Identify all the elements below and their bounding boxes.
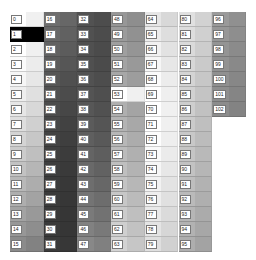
color-swatch: 31 [44,237,78,252]
color-swatch: 92 [179,192,213,207]
color-swatch: 84 [179,72,213,87]
swatch-shade [127,42,143,56]
color-swatch: 95 [179,237,213,252]
swatch-shade [229,72,245,86]
color-swatch: 35 [77,57,111,72]
swatch-index-label: 86 [180,105,191,114]
color-swatch: 49 [111,27,145,42]
swatch-shade [26,42,42,56]
swatch-index-label: 9 [11,150,22,159]
swatch-shade [161,222,177,236]
swatch-index-label: 27 [45,180,56,189]
swatch-shade [60,57,76,71]
swatch-shade [26,207,42,221]
swatch-index-label: 5 [11,90,22,99]
swatch-index-label: 46 [78,225,89,234]
color-swatch: 19 [44,57,78,72]
color-swatch: 70 [145,102,179,117]
color-swatch: 62 [111,222,145,237]
swatch-shade [195,72,211,86]
swatch-shade [94,237,110,251]
swatch-shade [94,12,110,26]
color-swatch: 79 [145,237,179,252]
swatch-index-label: 20 [45,75,56,84]
swatch-shade [195,207,211,221]
swatch-index-label: 83 [180,60,191,69]
swatch-shade [195,132,211,146]
color-swatch: 66 [145,42,179,57]
color-swatch: 36 [77,72,111,87]
swatch-index-label: 31 [45,240,56,249]
swatch-index-label: 69 [146,90,157,99]
swatch-index-label: 37 [78,90,89,99]
color-swatch: 2 [10,42,44,57]
color-swatch: 25 [44,147,78,162]
color-swatch: 24 [44,132,78,147]
swatch-index-label: 41 [78,150,89,159]
swatch-shade [195,117,211,131]
swatch-shade [229,27,245,41]
color-swatch: 69 [145,87,179,102]
swatch-shade [195,42,211,56]
swatch-index-label: 25 [45,150,56,159]
color-swatch: 44 [77,192,111,207]
color-swatch: 67 [145,57,179,72]
color-swatch: 15 [10,237,44,252]
color-swatch: 17 [44,27,78,42]
color-swatch: 94 [179,222,213,237]
swatch-column: 0123456789101112131415 [10,12,44,252]
swatch-index-label: 71 [146,120,157,129]
swatch-index-label: 96 [213,15,224,24]
swatch-shade [127,162,143,176]
swatch-shade [94,117,110,131]
color-swatch: 55 [111,117,145,132]
color-swatch: 99 [212,57,246,72]
swatch-index-label: 11 [11,180,22,189]
swatch-index-label: 81 [180,30,191,39]
swatch-shade [26,57,42,71]
color-swatch: 47 [77,237,111,252]
color-swatch: 83 [179,57,213,72]
color-swatch: 27 [44,177,78,192]
swatch-shade [195,222,211,236]
color-swatch: 102 [212,102,246,117]
swatch-index-label: 80 [180,15,191,24]
swatch-index-label: 22 [45,105,56,114]
swatch-shade [229,12,245,26]
color-swatch: 16 [44,12,78,27]
color-swatch: 13 [10,207,44,222]
swatch-index-label: 102 [213,105,225,114]
swatch-column: 64656667686970717273747576777879 [145,12,179,252]
swatch-index-label: 84 [180,75,191,84]
swatch-index-label: 2 [11,45,22,54]
swatch-shade [195,102,211,116]
color-swatch: 12 [10,192,44,207]
swatch-shade [94,42,110,56]
swatch-shade [26,72,42,86]
swatch-shade [229,87,245,101]
color-swatch: 89 [179,147,213,162]
swatch-shade [94,177,110,191]
swatch-index-label: 76 [146,195,157,204]
swatch-index-label: 1 [11,30,22,39]
color-swatch: 22 [44,102,78,117]
swatch-index-label: 51 [112,60,123,69]
color-swatch: 26 [44,162,78,177]
color-swatch: 7 [10,117,44,132]
swatch-index-label: 30 [45,225,56,234]
swatch-shade [94,102,110,116]
swatch-index-label: 54 [112,105,123,114]
swatch-shade [60,117,76,131]
swatch-index-label: 21 [45,90,56,99]
swatch-shade [94,147,110,161]
color-swatch: 63 [111,237,145,252]
color-swatch: 46 [77,222,111,237]
swatch-index-label: 14 [11,225,22,234]
color-swatch: 57 [111,147,145,162]
swatch-shade [195,162,211,176]
color-swatch: 5 [10,87,44,102]
color-swatch: 76 [145,192,179,207]
swatch-index-label: 101 [213,90,225,99]
swatch-shade [195,27,211,41]
color-swatch: 61 [111,207,145,222]
